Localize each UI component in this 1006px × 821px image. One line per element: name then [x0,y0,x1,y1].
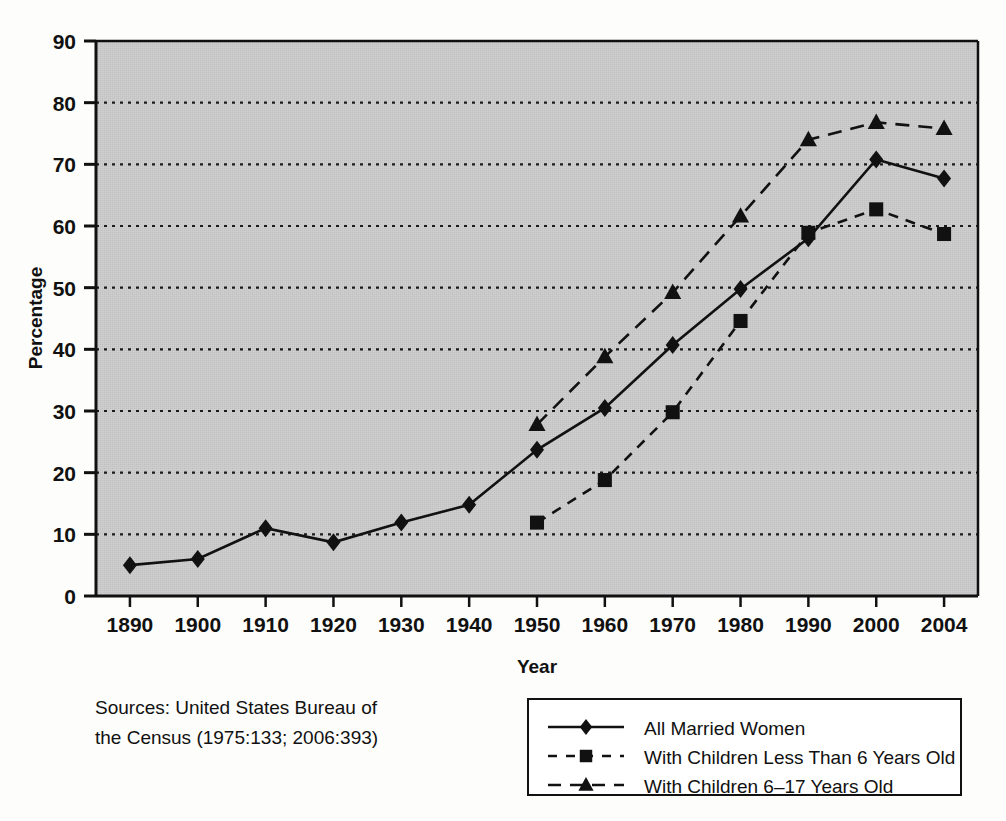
source-note-line1: Sources: United States Bureau of [95,697,378,718]
x-tick-label: 1900 [174,613,221,636]
x-tick-label: 2000 [853,613,900,636]
x-tick-label: 1890 [107,613,154,636]
data-point-square [580,750,592,762]
y-tick-label: 90 [53,30,76,53]
chart-svg: 0102030405060708090 18901900191019201930… [0,0,1006,821]
y-axis-title: Percentage [25,267,46,369]
data-point-square [869,202,883,216]
x-tick-label: 1970 [649,613,696,636]
x-tick-label: 1990 [785,613,832,636]
chart-figure: 0102030405060708090 18901900191019201930… [0,0,1006,821]
x-tick-label: 2004 [921,613,968,636]
plot-area-background [96,41,978,596]
legend-item-label: With Children Less Than 6 Years Old [644,747,955,768]
legend-item-label: All Married Women [644,718,805,739]
y-tick-label: 60 [53,215,76,238]
data-point-square [666,405,680,419]
legend: All Married WomenWith Children Less Than… [528,699,961,797]
source-note-line2: the Census (1975:133; 2006:393) [95,727,378,748]
y-tick-label: 30 [53,400,76,423]
data-point-square [801,226,815,240]
data-point-square [530,516,544,530]
x-tick-label: 1940 [446,613,493,636]
x-axis-title: Year [517,656,558,677]
x-tick-label: 1930 [378,613,425,636]
y-tick-label: 0 [64,585,76,608]
y-tick-label: 20 [53,462,76,485]
x-tick-label: 1980 [717,613,764,636]
y-tick-label: 10 [53,523,76,546]
y-tick-label: 50 [53,277,76,300]
x-axis-ticks: 1890190019101920193019401950196019701980… [107,596,968,636]
legend-item-label: With Children 6–17 Years Old [644,776,893,797]
x-tick-label: 1960 [581,613,628,636]
data-point-square [598,473,612,487]
x-tick-label: 1920 [310,613,357,636]
data-point-square [734,314,748,328]
x-tick-label: 1950 [514,613,561,636]
x-tick-label: 1910 [242,613,289,636]
y-axis-ticks: 0102030405060708090 [53,30,96,608]
y-tick-label: 80 [53,92,76,115]
y-tick-label: 70 [53,153,76,176]
y-tick-label: 40 [53,338,76,361]
data-point-square [937,227,951,241]
